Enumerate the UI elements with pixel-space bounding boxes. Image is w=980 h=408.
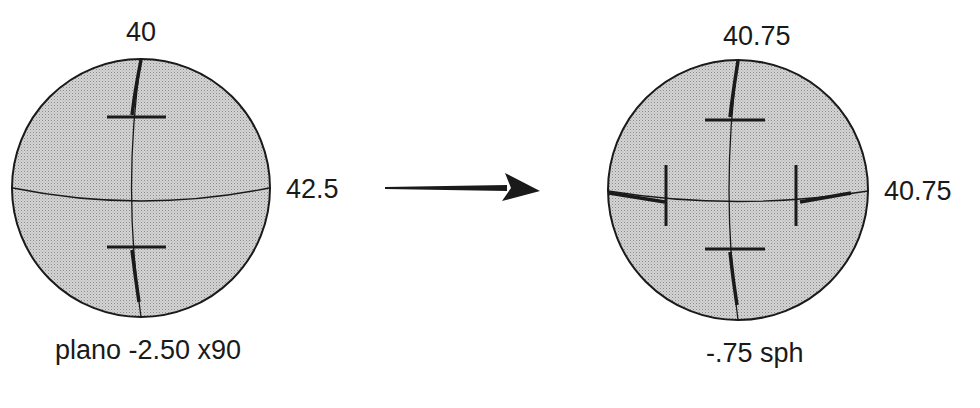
left-caption: plano -2.50 x90 [55,337,241,364]
left-top-label: 40 [126,19,156,46]
arrow-icon [385,173,540,201]
right-right-label: 40.75 [884,178,952,205]
left-sphere [12,59,270,317]
left-right-label: 42.5 [286,176,339,203]
right-caption: -.75 sph [706,340,804,367]
right-sphere [608,60,868,320]
right-top-label: 40.75 [723,23,791,50]
